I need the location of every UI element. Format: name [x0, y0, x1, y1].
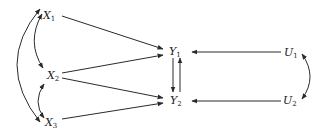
- node-x2: X2: [47, 70, 59, 83]
- node-x3: X3: [45, 117, 57, 130]
- corr-x2-x3: [38, 84, 44, 118]
- arrow-x2-y1: [62, 55, 163, 73]
- corr-u1-u2: [302, 54, 310, 99]
- node-x3-letter: X: [45, 116, 53, 129]
- node-x2-sub: 2: [55, 75, 59, 83]
- node-u1-sub: 1: [293, 52, 297, 60]
- node-x1: X1: [43, 10, 55, 23]
- node-u1-letter: U: [284, 46, 293, 59]
- node-x1-letter: X: [43, 9, 51, 22]
- node-y1-sub: 1: [176, 51, 180, 59]
- node-x3-sub: 3: [53, 122, 57, 130]
- node-u2-sub: 2: [292, 100, 296, 108]
- node-y1: Y1: [169, 46, 181, 59]
- arrow-x1-y1: [62, 16, 163, 49]
- node-x1-sub: 1: [51, 15, 55, 23]
- arrow-x3-y2: [62, 103, 163, 119]
- node-u2: U2: [283, 95, 297, 108]
- node-x2-letter: X: [47, 69, 55, 82]
- node-y2-sub: 2: [177, 100, 181, 108]
- arrow-x2-y2: [62, 78, 163, 98]
- node-u2-letter: U: [283, 94, 292, 107]
- node-u1: U1: [284, 47, 298, 60]
- node-y2: Y2: [170, 95, 182, 108]
- path-diagram: X1 X2 X3 Y1 Y2 U1 U2: [0, 0, 327, 132]
- corr-x1-x2: [34, 14, 43, 68]
